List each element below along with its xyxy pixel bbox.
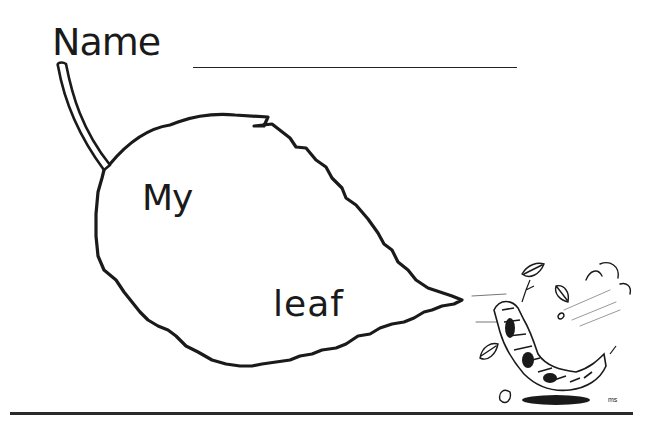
caterpillar-illustration-icon: ms [460, 250, 650, 415]
bottom-rule [10, 412, 633, 415]
my-label: My [142, 178, 192, 218]
svg-text:ms: ms [608, 396, 618, 403]
leaf-label: leaf [273, 284, 344, 324]
